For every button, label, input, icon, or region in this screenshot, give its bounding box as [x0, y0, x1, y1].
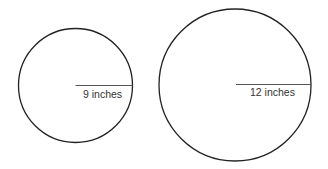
- circles-diagram: 9 inches 12 inches: [0, 0, 328, 169]
- small-circle-group: 9 inches: [19, 29, 133, 143]
- small-circle-radius-label: 9 inches: [83, 88, 122, 100]
- large-circle-group: 12 inches: [159, 9, 311, 161]
- large-circle-radius-label: 12 inches: [250, 86, 295, 98]
